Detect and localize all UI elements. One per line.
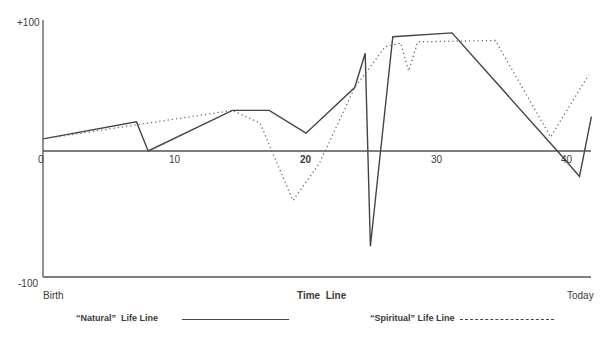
spiritual-life-line bbox=[43, 41, 589, 201]
x-tick-40: 40 bbox=[561, 154, 572, 165]
legend-spiritual-swatch bbox=[460, 319, 554, 320]
y-top-label: +100 bbox=[17, 17, 40, 28]
x-tick-20: 20 bbox=[300, 154, 311, 165]
y-bottom-label: -100 bbox=[18, 278, 38, 289]
x-axis-title: Time Line bbox=[297, 290, 346, 301]
x-tick-10: 10 bbox=[169, 154, 180, 165]
today-label: Today bbox=[567, 290, 594, 301]
legend-natural-swatch bbox=[182, 319, 289, 320]
x-tick-30: 30 bbox=[431, 154, 442, 165]
natural-life-line bbox=[43, 33, 591, 246]
legend-natural-label: “Natural” Life Line bbox=[76, 313, 158, 323]
legend-spiritual-label: “Spiritual” Life Line bbox=[370, 313, 455, 323]
axes bbox=[43, 20, 591, 277]
birth-label: Birth bbox=[43, 290, 64, 301]
x-tick-0: 0 bbox=[38, 154, 44, 165]
life-line-chart bbox=[0, 0, 612, 338]
